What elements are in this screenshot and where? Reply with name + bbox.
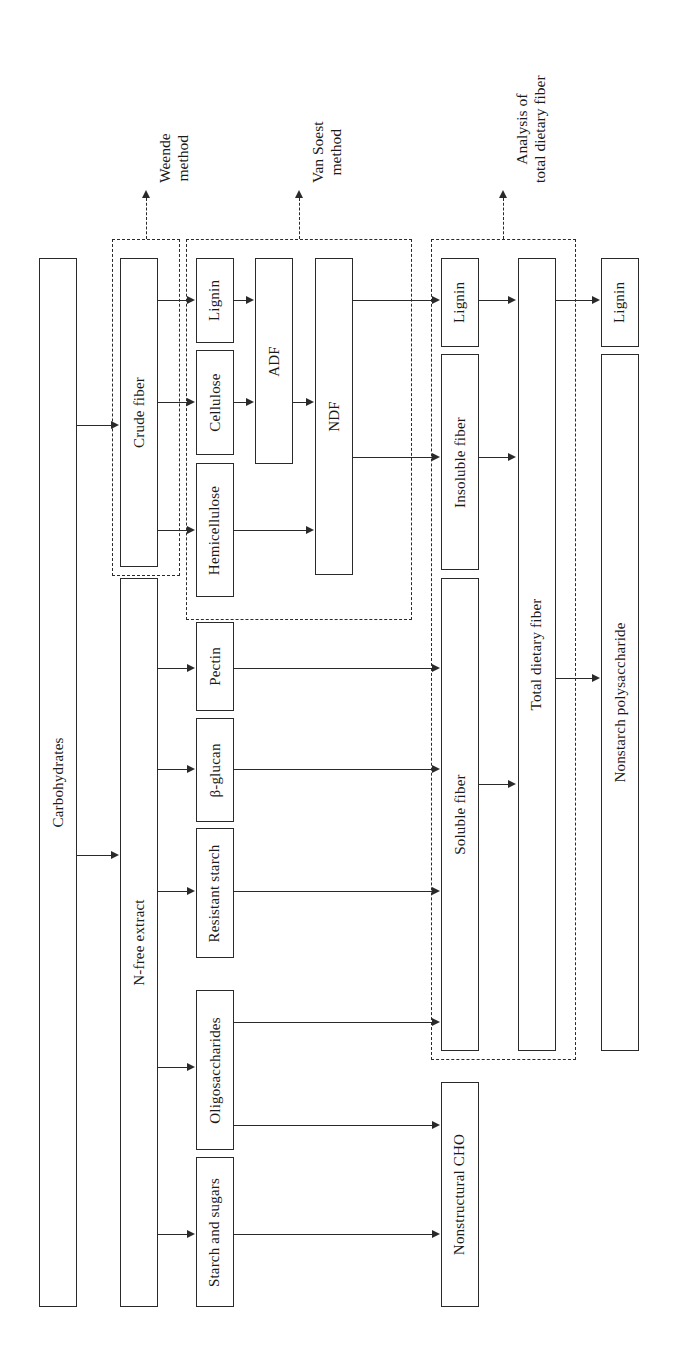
arrow-tdf-to-nonstarch-polysaccharide	[592, 674, 600, 682]
edge-starch-and-sugars-to-nonstructural-cho	[234, 1234, 432, 1235]
node-carbohydrates-label: Carbohydrates	[51, 737, 66, 827]
edge-pectin-to-soluble-fiber	[234, 668, 432, 669]
caption-weende-line2: method	[174, 133, 192, 183]
arrow-soluble-fiber-to-tdf	[508, 780, 516, 788]
node-adf-label: ADF	[266, 346, 281, 377]
edge-crude-fiber-to-lignin-1	[158, 300, 188, 301]
arrow-resistant-starch-to-soluble-fiber	[432, 887, 440, 895]
arrow-adf-to-ndf	[306, 398, 314, 406]
arrow-nfe-to-oligosaccharides	[187, 1063, 195, 1071]
node-nonstructural-cho[interactable]: Nonstructural CHO	[441, 1082, 479, 1307]
arrow-crude-fiber-to-lignin-1	[187, 296, 195, 304]
arrow-nfe-to-resistant-starch	[187, 887, 195, 895]
node-crude-fiber-label: Crude fiber	[132, 377, 147, 448]
edge-carbs-to-crude-fiber	[77, 425, 112, 426]
edge-nfe-to-oligosaccharides	[158, 1067, 188, 1068]
edge-resistant-starch-to-soluble-fiber	[234, 891, 432, 892]
edge-nfe-to-starch-and-sugars	[158, 1234, 188, 1235]
edge-tdf-to-lignin-3	[556, 300, 592, 301]
arrow-cellulose-to-adf	[246, 398, 254, 406]
edge-nfe-to-pectin	[158, 668, 188, 669]
caption-van-soest-line1: Van Soest	[309, 121, 327, 183]
node-nonstarch-polysaccharide-label: Nonstarch polysaccharide	[613, 622, 628, 782]
arrow-oligosaccharides-to-soluble-fiber	[432, 1018, 440, 1026]
arrow-lignin-1-to-adf	[246, 296, 254, 304]
edge-lignin-1-to-adf	[234, 300, 246, 301]
edge-carbs-to-n-free-extract	[77, 855, 112, 856]
node-carbohydrates[interactable]: Carbohydrates	[39, 258, 77, 1307]
node-ndf[interactable]: NDF	[315, 258, 353, 575]
arrow-carbs-to-crude-fiber	[111, 421, 119, 429]
node-lignin-2[interactable]: Lignin	[441, 258, 479, 347]
arrow-nfe-to-pectin	[187, 664, 195, 672]
edge-ndf-to-lignin-2	[353, 300, 432, 301]
node-soluble-fiber[interactable]: Soluble fiber	[441, 578, 479, 1051]
flowchart-canvas: Weende method Van Soest method Analysis …	[0, 0, 679, 1371]
node-lignin-1[interactable]: Lignin	[196, 258, 234, 343]
arrow-ndf-to-insoluble-fiber	[432, 453, 440, 461]
arrow-crude-fiber-to-cellulose	[187, 398, 195, 406]
node-nonstarch-polysaccharide[interactable]: Nonstarch polysaccharide	[601, 354, 639, 1051]
node-crude-fiber[interactable]: Crude fiber	[120, 258, 158, 567]
node-hemicellulose[interactable]: Hemicellulose	[196, 463, 234, 597]
node-lignin-2-label: Lignin	[453, 282, 468, 323]
node-beta-glucan-label: β-glucan	[208, 743, 223, 797]
arrow-oligosaccharides-to-nonstructural-cho	[432, 1121, 440, 1129]
caption-van-soest-method: Van Soest method	[309, 121, 346, 183]
edge-nfe-to-resistant-starch	[158, 891, 188, 892]
edge-ndf-to-insoluble-fiber	[353, 457, 432, 458]
arrow-crude-fiber-to-hemicellulose	[187, 526, 195, 534]
node-oligosaccharides[interactable]: Oligosaccharides	[196, 990, 234, 1150]
node-lignin-3[interactable]: Lignin	[601, 258, 639, 347]
arrow-starch-and-sugars-to-nonstructural-cho	[432, 1230, 440, 1238]
arrow-nfe-to-beta-glucan	[187, 765, 195, 773]
arrow-beta-glucan-to-soluble-fiber	[432, 765, 440, 773]
node-oligosaccharides-label: Oligosaccharides	[208, 1017, 223, 1124]
arrow-lignin-2-to-tdf	[508, 296, 516, 304]
arrow-hemicellulose-to-ndf	[306, 526, 314, 534]
node-beta-glucan[interactable]: β-glucan	[196, 718, 234, 822]
node-resistant-starch-label: Resistant starch	[208, 844, 223, 942]
edge-crude-fiber-to-cellulose	[158, 402, 188, 403]
node-total-dietary-fiber[interactable]: Total dietary fiber	[518, 258, 556, 1051]
node-n-free-extract-label: N-free extract	[132, 899, 147, 986]
caption-tdf-line1: Analysis of	[513, 75, 531, 183]
arrow-tdf-to-lignin-3	[592, 296, 600, 304]
caption-van-soest-line2: method	[327, 121, 345, 183]
arrow-nfe-to-starch-and-sugars	[187, 1230, 195, 1238]
tdf-callout-stem	[503, 198, 504, 239]
node-adf[interactable]: ADF	[255, 258, 293, 464]
arrow-ndf-to-lignin-2	[432, 296, 440, 304]
node-insoluble-fiber-label: Insoluble fiber	[453, 417, 468, 508]
arrow-insoluble-fiber-to-tdf	[508, 453, 516, 461]
node-n-free-extract[interactable]: N-free extract	[120, 578, 158, 1307]
node-cellulose[interactable]: Cellulose	[196, 350, 234, 455]
node-lignin-1-label: Lignin	[208, 280, 223, 321]
van-soest-callout-stem	[299, 198, 300, 239]
node-resistant-starch[interactable]: Resistant starch	[196, 828, 234, 958]
node-soluble-fiber-label: Soluble fiber	[453, 774, 468, 855]
tdf-callout-arrow	[499, 190, 507, 198]
edge-tdf-to-nonstarch-polysaccharide	[556, 678, 592, 679]
node-starch-and-sugars[interactable]: Starch and sugars	[196, 1157, 234, 1307]
node-insoluble-fiber[interactable]: Insoluble fiber	[441, 354, 479, 570]
weende-callout-arrow	[142, 190, 150, 198]
node-nonstructural-cho-label: Nonstructural CHO	[453, 1134, 468, 1255]
edge-lignin-2-to-tdf	[479, 300, 509, 301]
caption-weende-line1: Weende	[156, 133, 174, 183]
node-lignin-3-label: Lignin	[613, 282, 628, 323]
edge-adf-to-ndf	[293, 402, 306, 403]
edge-oligosaccharides-to-soluble-fiber	[234, 1022, 432, 1023]
node-total-dietary-fiber-label: Total dietary fiber	[530, 599, 545, 711]
edge-soluble-fiber-to-tdf	[479, 784, 509, 785]
edge-cellulose-to-adf	[234, 402, 246, 403]
edge-crude-fiber-to-hemicellulose	[158, 530, 188, 531]
node-cellulose-label: Cellulose	[208, 373, 223, 431]
edge-hemicellulose-to-ndf	[234, 530, 306, 531]
edge-oligosaccharides-to-nonstructural-cho	[234, 1125, 432, 1126]
edge-beta-glucan-to-soluble-fiber	[234, 769, 432, 770]
arrow-pectin-to-soluble-fiber	[432, 664, 440, 672]
node-pectin[interactable]: Pectin	[196, 622, 234, 711]
arrow-carbs-to-n-free-extract	[111, 851, 119, 859]
caption-total-dietary-fiber: Analysis of total dietary fiber	[513, 75, 550, 183]
